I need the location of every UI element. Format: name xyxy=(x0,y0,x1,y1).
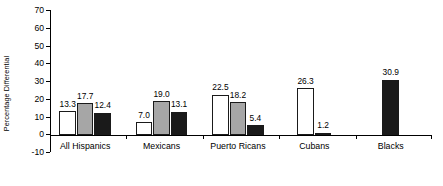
category-label: Mexicans xyxy=(143,142,180,151)
bar xyxy=(212,95,229,135)
y-axis-tick xyxy=(46,99,50,100)
category-label: Blacks xyxy=(378,142,404,151)
bar xyxy=(247,125,264,135)
y-axis-tick xyxy=(46,134,50,135)
bar-value-label: 17.7 xyxy=(77,92,93,100)
x-axis-end-tick xyxy=(431,135,432,139)
y-axis-tick xyxy=(46,46,50,47)
y-axis-tick-label: 70 xyxy=(34,6,44,15)
y-axis-tick-label: 50 xyxy=(34,41,44,50)
category-label: All Hispanics xyxy=(60,142,110,151)
bar xyxy=(297,88,314,135)
y-axis-tick xyxy=(46,81,50,82)
x-axis-tick xyxy=(203,135,204,139)
bar xyxy=(153,101,170,135)
category-label: Cubans xyxy=(299,142,329,151)
y-axis-tick-label: 30 xyxy=(34,77,44,86)
bar-value-label: 30.9 xyxy=(383,68,399,76)
x-axis-tick xyxy=(356,135,357,139)
bar xyxy=(230,102,247,134)
bar-value-label: 1.2 xyxy=(317,121,329,129)
y-axis-title-label: Percentage Differential xyxy=(3,55,12,130)
bar xyxy=(136,122,153,134)
y-axis-tick-label: 40 xyxy=(34,59,44,68)
bar xyxy=(59,111,76,135)
bar-value-label: 19.0 xyxy=(153,90,169,98)
y-axis-tick xyxy=(46,28,50,29)
y-axis-title: Percentage Differential xyxy=(0,0,14,186)
bar xyxy=(171,112,188,135)
bar-value-label: 22.5 xyxy=(212,83,228,91)
x-axis-tick xyxy=(279,135,280,139)
bar-value-label: 18.2 xyxy=(230,91,246,99)
y-axis-tick xyxy=(46,10,50,11)
y-axis-tick xyxy=(46,152,50,153)
y-axis-tick xyxy=(46,117,50,118)
bar xyxy=(315,133,332,135)
bar xyxy=(382,80,399,135)
y-axis-tick-label: 20 xyxy=(34,94,44,103)
bar-value-label: 12.4 xyxy=(94,101,110,109)
bar-value-label: 13.3 xyxy=(59,100,75,108)
y-axis-tick-label: 60 xyxy=(34,23,44,32)
bar-chart: Percentage Differential -100102030405060… xyxy=(0,0,443,186)
y-axis-tick xyxy=(46,63,50,64)
bar xyxy=(77,103,94,134)
x-axis-line xyxy=(50,135,432,136)
plot-area: -10010203040506070 13.317.712.47.019.013… xyxy=(50,10,432,152)
x-axis-tick xyxy=(126,135,127,139)
category-label: Puerto Ricans xyxy=(210,142,265,151)
y-axis-tick-label: -10 xyxy=(32,148,44,157)
bar-value-label: 7.0 xyxy=(138,111,150,119)
bar-value-label: 26.3 xyxy=(297,77,313,85)
y-axis-tick-label: 10 xyxy=(34,112,44,121)
y-axis-tick-label: 0 xyxy=(39,130,44,139)
y-axis-line xyxy=(50,10,51,152)
bar-value-label: 5.4 xyxy=(250,114,262,122)
bar-value-label: 13.1 xyxy=(171,100,187,108)
bar xyxy=(94,113,111,135)
